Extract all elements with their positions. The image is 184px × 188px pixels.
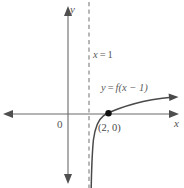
function-label-lhs: y <box>101 82 106 93</box>
origin-label: 0 <box>57 119 63 130</box>
function-curve <box>91 94 178 188</box>
y-axis-label: y <box>70 4 75 15</box>
function-curve-arrowhead <box>169 94 179 101</box>
coordinate-plane-svg <box>0 0 184 188</box>
function-curve-path <box>91 97 171 188</box>
function-label-rhs: f(x − 1) <box>116 82 148 93</box>
point-coordinate-label: (2, 0) <box>98 123 121 134</box>
function-label: y=f(x − 1) <box>101 83 148 94</box>
asymptote-label-value: 1 <box>108 49 113 60</box>
math-graph-figure: y x 0 x=1 y=f(x − 1) (2, 0) <box>0 0 184 188</box>
asymptote-label-variable: x <box>93 49 98 60</box>
y-axis <box>64 6 72 184</box>
asymptote-label-relation: = <box>98 49 108 60</box>
asymptote-label: x=1 <box>93 50 113 61</box>
x-axis-label: x <box>174 118 179 129</box>
marked-point-2-0 <box>105 110 111 116</box>
x-axis-left-arrowhead <box>3 110 13 118</box>
x-axis <box>3 110 179 118</box>
y-axis-bottom-arrowhead <box>64 174 72 184</box>
function-label-relation: = <box>106 82 116 93</box>
